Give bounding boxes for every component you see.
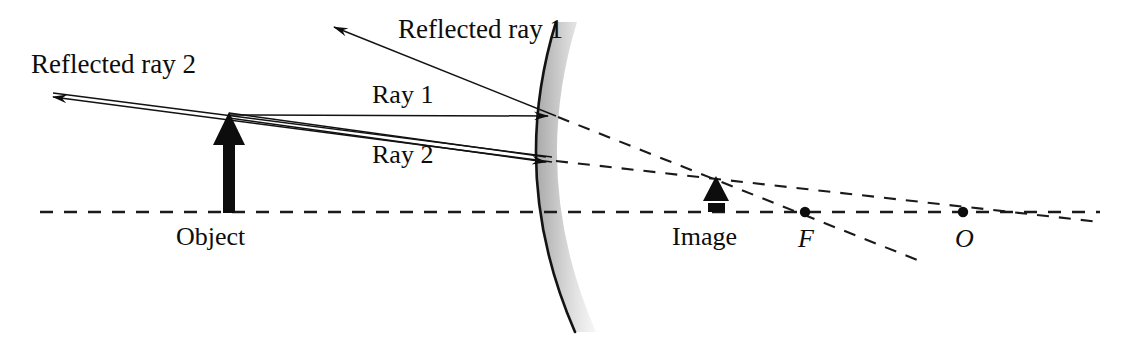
object-arrow [213, 112, 245, 213]
label-image: Image [672, 224, 737, 250]
virtual-extension-ray-1 [558, 117, 925, 263]
label-reflected-ray-1: Reflected ray 1 [398, 16, 563, 43]
center-of-curvature-dot [958, 207, 968, 217]
focal-point-dot [800, 207, 810, 217]
label-reflected-ray-2: Reflected ray 2 [31, 51, 196, 78]
label-ray-1: Ray 1 [372, 82, 433, 108]
ray-1-incident [229, 115, 548, 116]
virtual-extension-ray-2 [556, 161, 1100, 222]
image-arrow [703, 176, 729, 212]
label-center-of-curvature: O [955, 226, 974, 252]
label-object: Object [176, 224, 245, 250]
label-ray-2: Ray 2 [372, 142, 433, 168]
ray-diagram-figure: Reflected ray 1 Reflected ray 2 Ray 1 Ra… [0, 0, 1142, 356]
reflected-ray-2 [53, 93, 552, 157]
reflected-ray-2-b [53, 97, 552, 162]
label-focal-point: F [798, 226, 814, 252]
